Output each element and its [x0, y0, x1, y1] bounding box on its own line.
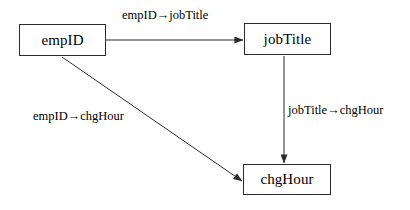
node-chghour-label: chgHour — [260, 172, 313, 187]
edge-label-jobtitle-to-chghour: jobTitle→chgHour — [288, 104, 383, 117]
node-empid-label: empID — [41, 33, 83, 48]
edge-label-empid-to-jobtitle: empID→jobTitle — [122, 9, 208, 22]
edge-label-empid-to-chghour: empID→chgHour — [33, 110, 124, 123]
node-chghour[interactable]: chgHour — [243, 164, 331, 195]
node-empid[interactable]: empID — [19, 24, 106, 56]
node-jobtitle-label: jobTitle — [264, 32, 312, 47]
diagram-canvas: empID jobTitle chgHour empID→jobTitle em… — [0, 0, 410, 210]
node-jobtitle[interactable]: jobTitle — [244, 23, 331, 55]
